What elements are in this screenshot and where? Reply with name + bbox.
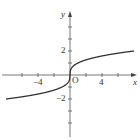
x-tick-label-neg4: −4 (33, 77, 43, 87)
y-tick-label-neg2: −2 (56, 93, 66, 103)
x-axis-label: x (132, 77, 137, 87)
origin-label: O (72, 75, 79, 85)
cube-root-chart: y x O −4 4 2 −2 (0, 0, 140, 140)
y-axis-label: y (60, 9, 65, 19)
y-tick-label-2: 2 (61, 45, 66, 55)
y-axis-arrow-icon (68, 11, 72, 17)
x-tick-label-4: 4 (99, 77, 104, 87)
